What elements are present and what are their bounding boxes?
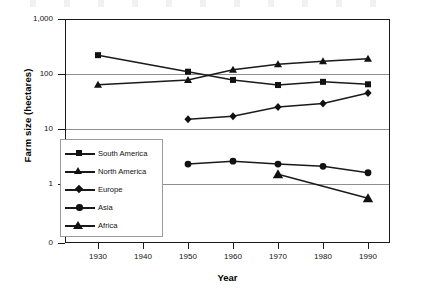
legend-item[interactable]: Europe bbox=[65, 181, 162, 199]
y-axis-tick bbox=[58, 129, 65, 130]
gridline bbox=[66, 129, 389, 130]
legend-label: Asia bbox=[95, 204, 113, 212]
legend-item[interactable]: Africa bbox=[65, 217, 162, 235]
x-axis-label: 1980 bbox=[303, 253, 343, 261]
legend-label: North America bbox=[95, 168, 146, 176]
x-axis-tick bbox=[188, 243, 189, 249]
x-axis-label: 1970 bbox=[258, 253, 298, 261]
legend-item[interactable]: South America bbox=[65, 145, 162, 163]
legend-marker-icon bbox=[65, 147, 95, 161]
x-axis-tick bbox=[278, 243, 279, 249]
legend-label: South America bbox=[95, 150, 147, 158]
x-axis-label: 1950 bbox=[168, 253, 208, 261]
y-axis-label: 10 bbox=[0, 125, 57, 133]
y-axis-tick bbox=[58, 19, 65, 20]
x-axis-tick bbox=[143, 243, 144, 249]
legend-marker-icon bbox=[65, 219, 95, 233]
y-axis-label: 1 bbox=[0, 180, 57, 188]
scan-artifact-strip bbox=[30, 0, 395, 7]
x-axis-title: Year bbox=[65, 272, 390, 283]
x-axis-tick bbox=[233, 243, 234, 249]
legend-marker-icon bbox=[65, 183, 95, 197]
legend-label: Europe bbox=[95, 186, 123, 194]
y-axis-tick bbox=[58, 74, 65, 75]
y-axis-label: 100 bbox=[0, 70, 57, 78]
x-axis-label: 1960 bbox=[213, 253, 253, 261]
legend-marker-icon bbox=[65, 165, 95, 179]
y-axis-label: 1,000 bbox=[0, 15, 57, 23]
x-axis-tick bbox=[368, 243, 369, 249]
legend-item[interactable]: North America bbox=[65, 163, 162, 181]
legend-item[interactable]: Asia bbox=[65, 199, 162, 217]
y-axis-label: 0 bbox=[0, 239, 57, 247]
x-axis-tick bbox=[98, 243, 99, 249]
y-axis-tick bbox=[58, 243, 65, 244]
gridline bbox=[66, 74, 389, 75]
x-axis-label: 1930 bbox=[78, 253, 118, 261]
legend-marker-icon bbox=[65, 201, 95, 215]
legend-label: Africa bbox=[95, 222, 117, 230]
x-axis-label: 1940 bbox=[123, 253, 163, 261]
x-axis-label: 1990 bbox=[348, 253, 388, 261]
y-axis-title: Farm size (hectares) bbox=[22, 41, 33, 191]
x-axis-tick bbox=[323, 243, 324, 249]
legend: South AmericaNorth AmericaEuropeAsiaAfri… bbox=[60, 139, 163, 237]
chart-figure: Farm size (hectares) 1,0001001010 193019… bbox=[0, 0, 425, 289]
